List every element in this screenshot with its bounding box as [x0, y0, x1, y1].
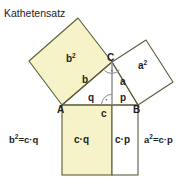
- side-label-a: a: [120, 76, 126, 87]
- label-rect-c-times-q: c·q: [74, 134, 89, 145]
- vertex-label-b: B: [133, 104, 140, 115]
- side-label-b: b: [82, 74, 88, 85]
- vertex-label-c: C: [107, 52, 114, 63]
- geometry-diagram: Kathetensatz b2 a2 A B C b a c q p c·q c…: [0, 0, 187, 187]
- right-angle-dot-at-c: [111, 70, 113, 72]
- vertex-label-a: A: [57, 104, 64, 115]
- formula-b-squared: b2=c·q: [9, 133, 38, 145]
- formula-a-squared: a2=c·p: [144, 133, 173, 145]
- side-label-q: q: [88, 92, 94, 103]
- page-title: Kathetensatz: [4, 7, 65, 19]
- kathetensatz-figure-canvas: Kathetensatz b2 a2 A B C b a c q p c·q c…: [0, 0, 187, 187]
- formula-a-rest: =c·p: [153, 134, 173, 145]
- label-a-squared-exponent: 2: [144, 59, 148, 66]
- label-rect-c-times-p: c·p: [115, 134, 130, 145]
- side-label-c: c: [101, 108, 107, 119]
- side-label-p: p: [120, 92, 126, 103]
- label-b-squared-exponent: 2: [72, 52, 76, 59]
- right-angle-dot-at-foot: [106, 99, 108, 101]
- formula-b-rest: =c·q: [18, 134, 38, 145]
